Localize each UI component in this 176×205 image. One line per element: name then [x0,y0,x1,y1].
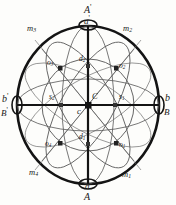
label-equator-left-lower: B' [1,108,8,118]
node-s1-dot [113,103,117,107]
label-d1: d1 [79,133,85,141]
label-pole-bottom-upper: a [85,182,90,191]
sphere-diagram: A' a' a A b' B' b B C c m3 m2 m4 m1 [0,0,176,205]
label-o3: o3 [47,59,53,67]
label-pole-bottom-lower: A [84,192,90,202]
label-o2: o2 [119,62,125,70]
label-m4: m4 [29,168,38,178]
label-pole-top-upper: A' [84,4,92,15]
label-equator-right-upper: b [165,93,170,103]
label-equator-left-upper: b' [2,93,8,104]
label-s1: s1 [119,93,124,101]
label-o4: o4 [45,140,51,148]
label-d2: d2 [79,55,85,63]
label-m1: m1 [122,170,131,180]
node-d2-dot [86,64,90,68]
node-center-dot [85,102,92,109]
label-center-c: c [77,107,81,116]
node-o1-dot [114,141,119,146]
label-m3: m3 [27,24,36,34]
label-equator-right-lower: B [164,108,170,117]
node-o2-dot [114,66,119,71]
label-o1: o1 [119,141,125,149]
label-m2: m2 [123,24,132,34]
node-d1-dot [86,142,90,146]
label-pole-top-lower: a' [84,16,90,26]
label-s2: s2 [49,93,54,101]
label-center-C: C [92,92,98,101]
node-o4-dot [58,141,63,146]
node-s2-dot [59,103,63,107]
node-o3-dot [58,66,63,71]
